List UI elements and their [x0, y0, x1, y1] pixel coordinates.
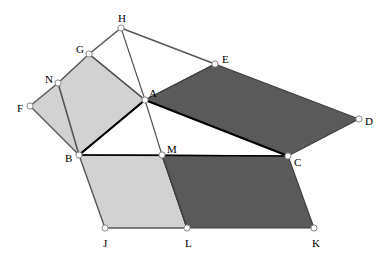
vertex-point-J[interactable]: [102, 225, 108, 231]
polygon-layer: [30, 54, 359, 228]
segment-B-C: [79, 155, 288, 156]
vertex-label-N: N: [45, 74, 53, 85]
vertex-point-K[interactable]: [311, 225, 317, 231]
vertex-point-C[interactable]: [285, 153, 291, 159]
vertex-label-E: E: [222, 54, 229, 65]
diagram-canvas: HGENFADBMCJLK: [0, 0, 390, 256]
vertex-label-D: D: [365, 116, 373, 127]
vertex-label-G: G: [76, 44, 84, 55]
vertex-point-E[interactable]: [212, 61, 218, 67]
vertex-point-F[interactable]: [27, 103, 33, 109]
vertex-label-A: A: [149, 88, 157, 99]
vertex-label-F: F: [17, 103, 23, 114]
vertex-point-B[interactable]: [76, 152, 82, 158]
vertex-point-N[interactable]: [55, 80, 61, 86]
segment-G-H: [89, 28, 121, 54]
vertex-label-H: H: [118, 13, 126, 24]
vertex-label-C: C: [294, 157, 301, 168]
vertex-point-L[interactable]: [184, 225, 190, 231]
vertex-point-A[interactable]: [142, 97, 148, 103]
segment-H-E: [121, 28, 215, 64]
segment-A-M: [145, 100, 162, 155]
parallelogram-M-C-K-L: [162, 155, 314, 228]
vertex-point-M[interactable]: [159, 152, 165, 158]
vertex-label-M: M: [167, 144, 177, 155]
vertex-point-G[interactable]: [86, 51, 92, 57]
vertex-point-D[interactable]: [356, 116, 362, 122]
vertex-point-H[interactable]: [118, 25, 124, 31]
geometry-figure: [0, 0, 390, 256]
quad-F-N-G-A-B: [30, 54, 145, 155]
vertex-label-J: J: [103, 238, 107, 249]
vertex-label-K: K: [312, 238, 320, 249]
vertex-label-B: B: [65, 153, 72, 164]
vertex-label-L: L: [185, 238, 192, 249]
